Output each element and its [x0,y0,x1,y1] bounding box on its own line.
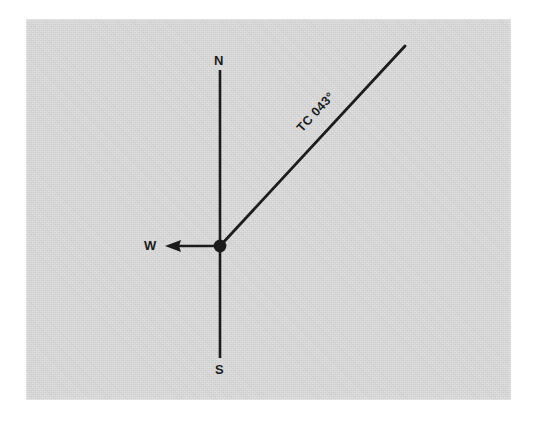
west-arrowhead-icon [165,240,181,252]
axis-label-north: N [214,53,224,68]
diagram-canvas [0,0,538,421]
axis-label-west: W [144,238,156,253]
figure-root: N S W TC 043° [0,0,538,421]
origin-dot [214,240,227,253]
true-course-line [220,46,405,246]
axis-label-south: S [215,362,224,377]
